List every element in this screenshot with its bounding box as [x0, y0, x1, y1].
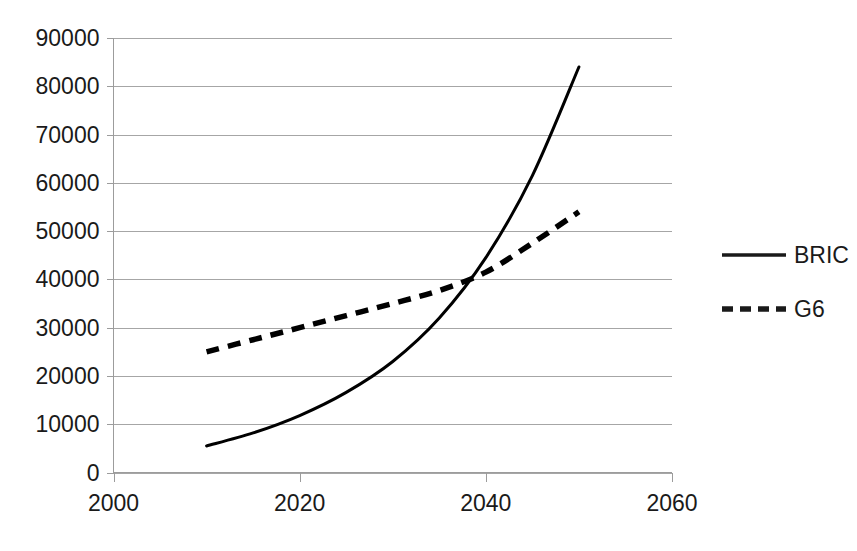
y-axis-tick-label: 40000 [36, 266, 100, 292]
y-axis-tick-label: 10000 [36, 411, 100, 437]
y-axis-tick-label: 60000 [36, 170, 100, 196]
y-axis-tick-label: 90000 [36, 25, 100, 51]
y-axis-tick-label: 20000 [36, 363, 100, 389]
x-axis-tick-label: 2000 [88, 490, 139, 516]
chart-background [0, 0, 857, 551]
x-axis-tick-label: 2060 [646, 490, 697, 516]
y-axis-tick-label: 30000 [36, 315, 100, 341]
line-chart: 0100002000030000400005000060000700008000… [0, 0, 857, 551]
y-axis-tick-label: 50000 [36, 218, 100, 244]
x-axis-tick-label: 2020 [274, 490, 325, 516]
legend-label-bric: BRIC [794, 242, 849, 268]
chart-container: 0100002000030000400005000060000700008000… [0, 0, 857, 551]
x-axis-tick-label: 2040 [460, 490, 511, 516]
y-axis-tick-label: 70000 [36, 122, 100, 148]
y-axis-tick-label: 80000 [36, 73, 100, 99]
y-axis-tick-label: 0 [87, 460, 100, 486]
legend-label-g6: G6 [794, 296, 825, 322]
